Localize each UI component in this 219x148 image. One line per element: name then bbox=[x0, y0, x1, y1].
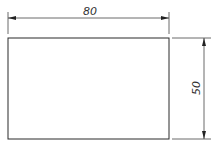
arrow-up-icon bbox=[202, 38, 206, 46]
technical-drawing: 80 50 bbox=[0, 0, 219, 148]
rectangle-shape bbox=[8, 38, 169, 139]
arrow-left-icon bbox=[8, 16, 16, 20]
height-dimension-label: 50 bbox=[190, 81, 203, 95]
arrow-right-icon bbox=[161, 16, 169, 20]
width-dimension-label: 80 bbox=[83, 5, 97, 18]
arrow-down-icon bbox=[202, 131, 206, 139]
